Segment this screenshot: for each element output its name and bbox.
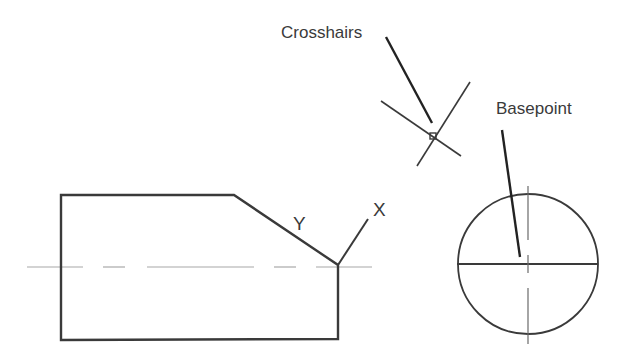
crosshairs-cursor	[381, 82, 470, 166]
y-axis-label: Y	[293, 213, 306, 235]
drawing-layer	[0, 0, 627, 356]
cad-diagram: Crosshairs Basepoint X Y	[0, 0, 627, 356]
x-axis-label: X	[373, 199, 386, 221]
basepoint-label: Basepoint	[496, 99, 572, 119]
basepoint-leader	[502, 130, 520, 257]
x-axis-line	[338, 219, 368, 265]
crosshairs-label: Crosshairs	[281, 23, 362, 43]
